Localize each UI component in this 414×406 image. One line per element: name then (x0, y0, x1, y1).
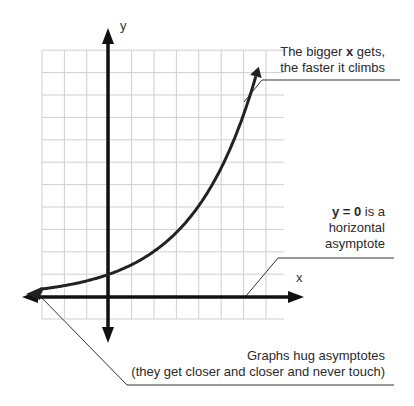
annotation-top-line2: the faster it climbs (280, 60, 385, 76)
annotation-bottom: Graphs hug asymptotes (they get closer a… (131, 348, 385, 380)
x-axis-arrow-right-icon (288, 291, 304, 303)
graph-diagram: y x The bigger x gets, the faster it cli… (0, 0, 414, 406)
leader-top (244, 80, 400, 102)
annotation-bottom-line2: (they get closer and closer and never to… (131, 364, 385, 380)
annotation-top: The bigger x gets, the faster it climbs (280, 44, 385, 76)
annotation-middle: y = 0 is a horizontal asymptote (325, 204, 385, 252)
annotation-middle-line1-bold: y = 0 (332, 204, 361, 219)
leader-middle (246, 258, 394, 296)
annotation-middle-line3: asymptote (325, 236, 385, 252)
annotation-top-line1-pre: The bigger (280, 44, 346, 59)
y-axis-label: y (120, 18, 127, 33)
annotation-middle-line2: horizontal (325, 220, 385, 236)
x-axis-label: x (296, 270, 303, 285)
grid (42, 50, 284, 319)
y-axis-arrow-up-icon (102, 28, 114, 44)
y-axis-arrow-down-icon (102, 327, 114, 343)
annotation-top-line1-post: gets, (353, 44, 385, 59)
annotation-bottom-line1: Graphs hug asymptotes (131, 348, 385, 364)
annotation-middle-line1-post: is a (361, 204, 385, 219)
